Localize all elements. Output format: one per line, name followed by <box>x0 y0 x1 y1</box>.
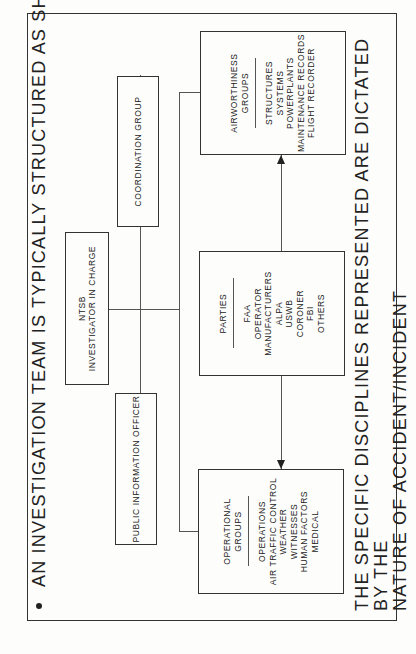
operational-groups-box: OPERATIONAL GROUPS OPERATIONS AIR TRAFFI… <box>198 469 344 594</box>
list-item: OPERATIONS <box>257 501 268 562</box>
arrowhead-airworthiness-icon <box>277 155 285 164</box>
list-item: HUMAN FACTORS <box>299 491 310 572</box>
list-item: MANUFACTURERS <box>263 271 274 355</box>
list-item: FBI <box>305 306 316 321</box>
list-item: FLIGHT RECORDER <box>306 48 317 138</box>
list-item: STRUCTURES <box>264 61 275 125</box>
list-item: AIR TRAFFIC CONTROL <box>268 478 279 586</box>
arrowhead-operational-icon <box>277 460 285 469</box>
list-item: WITNESSES <box>289 504 300 559</box>
coordination-label: COORDINATION GROUP <box>133 97 144 207</box>
airworthiness-heading-2: GROUPS <box>240 73 251 113</box>
pio-label: PUBLIC INFORMATION OFFICER <box>131 395 142 542</box>
operational-heading-2: GROUPS <box>233 511 244 551</box>
list-item: WEATHER <box>278 508 289 554</box>
list-item: OPERATOR <box>253 288 264 340</box>
operational-heading: OPERATIONAL <box>222 498 233 564</box>
pio-box: PUBLIC INFORMATION OFFICER <box>115 393 157 545</box>
connector-ntsb-branch <box>109 309 179 310</box>
parties-heading: PARTIES <box>218 294 229 334</box>
connector-groups-trunk <box>179 92 180 532</box>
divider <box>255 58 256 128</box>
ntsb-box: NTSB INVESTIGATOR IN CHARGE <box>65 232 109 385</box>
list-item: MAINTENANCE RECORDS <box>296 34 307 152</box>
bullet-icon <box>36 603 42 609</box>
divider <box>233 279 234 349</box>
footer-note: THE SPECIFIC DISCIPLINES REPRESENTED ARE… <box>353 13 410 611</box>
slide-title: AN INVESTIGATION TEAM IS TYPICALLY STRUC… <box>29 0 50 613</box>
divider <box>248 497 249 567</box>
parties-box: PARTIES FAA OPERATOR MANUFACTURERS ALPA … <box>199 251 345 376</box>
coordination-box: COORDINATION GROUP <box>117 76 159 227</box>
airworthiness-groups-box: AIRWORTHINESS GROUPS STRUCTURES SYSTEMS … <box>200 31 346 155</box>
list-item: OTHERS <box>316 294 327 333</box>
footer-line-1: THE SPECIFIC DISCIPLINES REPRESENTED ARE… <box>353 13 391 611</box>
footer-line-2: NATURE OF ACCIDENT/INCIDENT <box>391 13 410 611</box>
connector-to-airworthiness <box>179 92 200 93</box>
list-item: FAA <box>242 305 253 323</box>
list-item: SYSTEMS <box>275 71 286 116</box>
list-item: POWERPLANTS <box>285 57 296 129</box>
airworthiness-heading: AIRWORTHINESS <box>229 53 240 132</box>
title-text: AN INVESTIGATION TEAM IS TYPICALLY STRUC… <box>29 0 49 587</box>
diagram-canvas: AN INVESTIGATION TEAM IS TYPICALLY STRUC… <box>27 13 397 621</box>
list-item: MEDICAL <box>310 511 321 553</box>
connector-to-operational <box>179 531 199 532</box>
investigator-label: INVESTIGATOR IN CHARGE <box>87 246 98 371</box>
list-item: ALPA <box>274 302 285 326</box>
ntsb-label: NTSB <box>77 296 88 321</box>
list-item: CORONER <box>295 290 306 338</box>
list-item: USWB <box>284 300 295 328</box>
